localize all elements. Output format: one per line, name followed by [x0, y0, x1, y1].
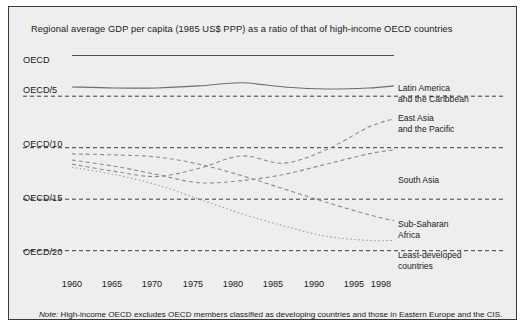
xtick-label-1998: 1998	[371, 279, 391, 289]
xtick-label-1990: 1990	[304, 279, 324, 289]
note-prefix: Note:	[39, 310, 58, 319]
xtick-label-1965: 1965	[102, 279, 122, 289]
series-label-least-developed-line2: countries	[398, 261, 462, 272]
series-label-sub-saharan-africa: Sub-Saharan Africa	[398, 219, 449, 240]
series-label-latin-america: Latin America and the Caribbean	[398, 83, 469, 104]
series-label-east-asia-line2: and the Pacific	[398, 124, 454, 135]
series-label-latin-america-line1: Latin America	[398, 83, 469, 94]
series-label-east-asia-line1: East Asia	[398, 113, 454, 124]
chart-note: Note: High-income OECD excludes OECD mem…	[39, 310, 502, 319]
chart-title: Regional average GDP per capita (1985 US…	[31, 24, 453, 34]
series-line-sub-saharan-africa	[72, 154, 394, 221]
ytick-label-oecd15: OECD/15	[23, 193, 62, 203]
series-label-sub-saharan-line2: Africa	[398, 230, 449, 241]
series-label-east-asia: East Asia and the Pacific	[398, 113, 454, 134]
xtick-label-1975: 1975	[183, 279, 203, 289]
series-label-least-developed: Least-developed countries	[398, 250, 462, 271]
xtick-label-1980: 1980	[223, 279, 243, 289]
ytick-label-oecd10: OECD/10	[23, 139, 62, 149]
series-label-least-developed-line1: Least-developed	[398, 250, 462, 261]
note-text: High-income OECD excludes OECD members c…	[61, 310, 503, 319]
series-label-south-asia-line1: South Asia	[398, 175, 439, 186]
series-label-sub-saharan-line1: Sub-Saharan	[398, 219, 449, 230]
series-line-least-developed-countries	[72, 167, 394, 240]
series-label-south-asia: South Asia	[398, 175, 439, 186]
ytick-label-oecd5: OECD/5	[23, 85, 57, 95]
xtick-label-1985: 1985	[263, 279, 283, 289]
xtick-label-1970: 1970	[142, 279, 162, 289]
series-line-latin-america-and-the-caribbean	[72, 83, 394, 89]
series-label-latin-america-line2: and the Caribbean	[398, 94, 469, 105]
ytick-label-oecd: OECD	[23, 55, 50, 65]
ytick-label-oecd20: OECD/20	[23, 247, 62, 257]
xtick-label-1995: 1995	[344, 279, 364, 289]
xtick-label-1960: 1960	[62, 279, 82, 289]
series-line-south-asia	[72, 150, 394, 183]
figure-panel: Regional average GDP per capita (1985 US…	[8, 6, 517, 320]
